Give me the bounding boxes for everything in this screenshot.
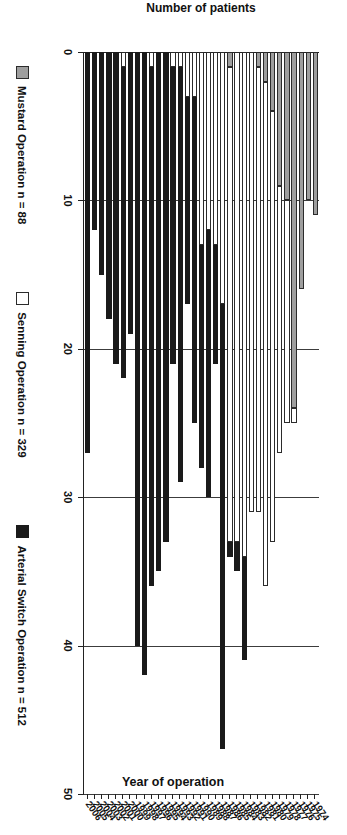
chart-rotation-wrapper: Number of patients 01020304050 Year of o… <box>0 0 347 835</box>
category-tick-1993 <box>179 794 180 799</box>
bar-row <box>170 52 175 794</box>
bar-row <box>163 52 168 794</box>
bar-row <box>156 52 161 794</box>
bar-segment-mustard <box>263 52 268 82</box>
bar-segment-arterial-switch <box>234 542 239 572</box>
bar-segment-senning <box>121 52 126 67</box>
bar-row <box>135 52 140 794</box>
value-tick-label-40: 40 <box>62 639 74 651</box>
legend-label-senning: Senning Operation n = 329 <box>17 312 29 457</box>
bar-segment-mustard <box>306 52 311 200</box>
value-tick-label-0: 0 <box>62 49 74 55</box>
category-tick-2003 <box>108 794 109 799</box>
bar-segment-senning <box>270 111 275 541</box>
bar-segment-arterial-switch <box>220 304 225 749</box>
bar-row <box>113 52 118 794</box>
bar-segment-senning <box>249 52 254 512</box>
bar-row <box>121 52 126 794</box>
value-tick-10 <box>78 200 84 201</box>
bar-row <box>284 52 289 794</box>
bar-segment-arterial-switch <box>156 52 161 571</box>
bar-segment-arterial-switch <box>85 52 90 453</box>
chart-legend: Mustard Operation n = 88 Senning Operati… <box>16 40 29 740</box>
bar-segment-senning <box>170 52 175 67</box>
bar-segment-mustard <box>227 52 232 67</box>
bar-row <box>199 52 204 794</box>
category-tick-1978 <box>286 794 287 799</box>
bar-row <box>149 52 154 794</box>
bar-row <box>234 52 239 794</box>
legend-item-arterial-switch: Arterial Switch Operation n = 512 <box>16 525 29 726</box>
bar-row <box>242 52 247 794</box>
bar-chart-figure: Number of patients 01020304050 Year of o… <box>0 0 347 835</box>
x-axis-line <box>83 52 84 794</box>
legend-item-mustard: Mustard Operation n = 88 <box>16 66 29 224</box>
bar-segment-senning <box>234 52 239 542</box>
plot-area <box>84 52 319 794</box>
category-tick-1990 <box>201 794 202 799</box>
bar-segment-senning <box>213 52 218 245</box>
category-tick-2002 <box>115 794 116 799</box>
bar-segment-senning <box>149 52 154 67</box>
bar-segment-senning <box>185 52 190 97</box>
legend-label-mustard: Mustard Operation n = 88 <box>17 86 29 224</box>
bar-segment-arterial-switch <box>113 52 118 364</box>
bar-segment-arterial-switch <box>135 52 140 646</box>
category-tick-1991 <box>193 794 194 799</box>
bars-layer <box>84 52 319 794</box>
bar-row <box>213 52 218 794</box>
bar-segment-senning <box>256 67 261 512</box>
category-tick-1995 <box>165 794 166 799</box>
bar-row <box>178 52 183 794</box>
category-tick-2004 <box>101 794 102 799</box>
x-axis-title-label: Year of operation <box>122 775 224 789</box>
bar-segment-arterial-switch <box>99 52 104 275</box>
category-tick-1981 <box>265 794 266 799</box>
bar-row <box>128 52 133 794</box>
legend-item-senning: Senning Operation n = 329 <box>16 292 29 457</box>
category-axis-years: 1974197519761977197819791980198119821983… <box>84 794 319 835</box>
category-tick-1983 <box>250 794 251 799</box>
bar-segment-senning <box>192 52 197 97</box>
bar-segment-senning <box>291 408 296 423</box>
bar-row <box>220 52 225 794</box>
bar-segment-senning <box>220 52 225 304</box>
bar-row <box>299 52 304 794</box>
bar-segment-arterial-switch <box>199 245 204 468</box>
category-tick-2000 <box>129 794 130 799</box>
bar-row <box>142 52 147 794</box>
bar-segment-arterial-switch <box>92 52 97 230</box>
legend-swatch-senning-icon <box>16 292 29 305</box>
bar-segment-arterial-switch <box>128 52 133 334</box>
value-tick-label-20: 20 <box>62 343 74 355</box>
bar-segment-senning <box>206 52 211 230</box>
bar-segment-mustard <box>270 52 275 111</box>
bar-row <box>291 52 296 794</box>
category-tick-1974 <box>314 794 315 799</box>
category-tick-1992 <box>186 794 187 799</box>
value-tick-20 <box>78 349 84 350</box>
bar-segment-arterial-switch <box>242 557 247 661</box>
bar-row <box>249 52 254 794</box>
bar-segment-arterial-switch <box>213 245 218 364</box>
category-tick-1976 <box>300 794 301 799</box>
bar-row <box>92 52 97 794</box>
bar-segment-mustard <box>291 52 296 408</box>
bar-segment-arterial-switch <box>185 97 190 305</box>
bar-segment-arterial-switch <box>206 230 211 497</box>
value-tick-30 <box>78 497 84 498</box>
bar-segment-arterial-switch <box>121 67 126 379</box>
value-tick-0 <box>78 52 84 53</box>
x-axis: 01020304050 <box>38 52 84 794</box>
legend-swatch-arterial-switch-icon <box>16 525 29 538</box>
category-tick-2001 <box>122 794 123 799</box>
bar-segment-mustard <box>299 52 304 289</box>
bar-segment-mustard <box>284 52 289 200</box>
bar-row <box>277 52 282 794</box>
bar-segment-senning <box>284 200 289 423</box>
category-tick-1999 <box>136 794 137 799</box>
bar-segment-arterial-switch <box>142 52 147 675</box>
category-tick-1984 <box>243 794 244 799</box>
legend-label-arterial-switch: Arterial Switch Operation n = 512 <box>17 545 29 726</box>
category-tick-2006 <box>87 794 88 799</box>
